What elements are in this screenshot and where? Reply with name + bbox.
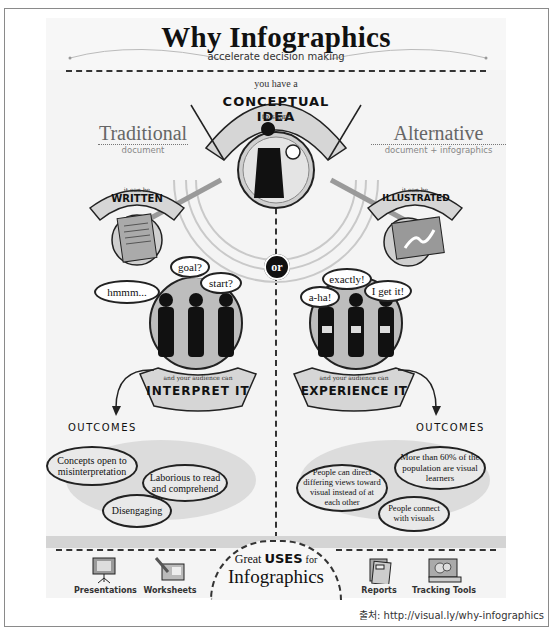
worksheet-pencil-icon [154,556,186,584]
report-book-icon [365,556,393,584]
header-band: Why Infographics accelerate decision mak… [46,18,506,70]
written-label: WRITTEN [102,193,172,204]
idea-intro-text: you have a [226,78,326,89]
uses-title-line2: Infographics [210,566,342,588]
outcome-arrows-graphic [46,358,506,428]
outcome-bubble: Concepts open to misinterpretation [46,446,138,486]
footer-divider-left [56,549,216,551]
speech-bubble: hmmm... [94,280,160,304]
illustrated-intro: it can be [388,186,442,193]
outcome-bubble: People can direct differing views toward… [296,464,388,512]
page-title: Why Infographics [46,21,506,54]
illustrated-label: ILLUSTRATED [376,193,456,203]
tracking-chart-icon [425,556,463,584]
presentation-easel-icon [90,556,118,584]
speech-bubble: I get it! [364,280,412,302]
speech-bubble: goal? [170,256,210,278]
outcome-bubble: More than 60% of the population are visu… [394,446,486,490]
source-credit: 출처: http://visual.ly/why-infographics [359,607,544,622]
left-outcomes-label: OUTCOMES [68,422,137,433]
uses-title-line1: Great USES for [210,551,342,567]
right-outcomes-label: OUTCOMES [416,422,485,433]
outcome-bubble: People connect with visuals [378,496,450,532]
speech-bubble: a-ha! [300,286,340,308]
use-item-tracking-tools: Tracking Tools [408,556,480,595]
written-intro: it can be [110,186,164,193]
traditional-heading: Traditional document [98,122,188,155]
footer-divider-right [336,549,496,551]
page-subtitle: accelerate decision making [46,51,506,62]
infographic-poster: Why Infographics accelerate decision mak… [46,18,506,598]
alternative-heading: Alternative document + infographics [371,122,506,155]
use-item-reports: Reports [354,556,404,595]
or-badge: or [264,254,290,280]
outcome-bubble: Disengaging [102,494,172,528]
speech-bubble: start? [200,272,242,294]
use-item-presentations: Presentations [74,556,134,595]
idea-tail-text: to share [246,111,306,121]
use-item-worksheets: Worksheets [140,556,200,595]
